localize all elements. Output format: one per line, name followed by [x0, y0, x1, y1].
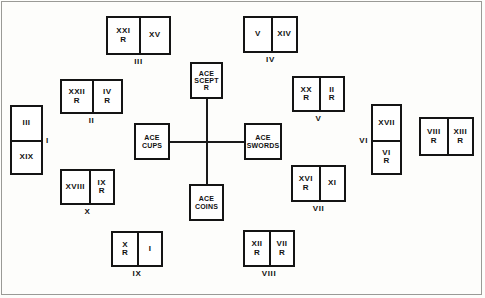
card-reversed: R	[329, 94, 335, 102]
page-border	[1, 1, 482, 295]
card-rank: ACE	[144, 134, 159, 141]
card-reversed: R	[457, 137, 463, 145]
card-slot[interactable]: XIII R	[447, 119, 473, 154]
card-rank: ACE	[199, 195, 214, 202]
group-number: V	[316, 114, 322, 123]
card-rank: I	[149, 245, 152, 253]
card-ace-swords[interactable]: ACE SWORDS	[246, 125, 280, 158]
card-slot[interactable]: XVIII	[62, 171, 89, 203]
card-slot[interactable]: XV	[139, 18, 170, 53]
card-suit: SCEPT	[194, 77, 218, 84]
card-ace-cups[interactable]: ACE CUPS	[136, 125, 168, 158]
card-slot[interactable]: III	[12, 107, 41, 140]
card-group-3[interactable]: XXI R XV III	[106, 16, 171, 55]
diagram-canvas: ACE SCEPT R ACE CUPS ACE SWORDS ACE COIN…	[0, 0, 485, 298]
card-rank: ACE	[199, 70, 214, 77]
group-number: III	[134, 57, 142, 66]
card-slot[interactable]: XVI R	[293, 167, 319, 200]
card-suit: CUPS	[142, 142, 162, 149]
card-slot[interactable]: V	[245, 18, 271, 51]
group-number: VIII	[262, 269, 276, 278]
card-group-ace-coins[interactable]: ACE COINS	[189, 184, 224, 221]
card-reversed: R	[303, 184, 309, 192]
card-group-11[interactable]: VIII R XIII R	[419, 117, 474, 156]
card-group-4[interactable]: V XIV IV	[243, 16, 298, 53]
card-rank: XVIII	[66, 183, 85, 191]
card-slot[interactable]: VII R	[269, 232, 293, 265]
card-slot[interactable]: XXI R	[108, 18, 139, 53]
group-number: VI	[359, 135, 368, 144]
card-slot[interactable]: XII R	[245, 232, 269, 265]
card-reversed: R	[204, 84, 209, 91]
card-group-9[interactable]: X R I IX	[111, 231, 163, 267]
card-group-5[interactable]: XX R II R V	[292, 76, 345, 112]
card-group-ace-cups[interactable]: ACE CUPS	[134, 123, 170, 160]
card-group-7[interactable]: XVI R XI VII	[291, 165, 346, 202]
group-number: IV	[266, 55, 275, 64]
card-rank: XIV	[277, 30, 291, 38]
card-reversed: R	[254, 249, 260, 257]
card-rank: V	[255, 30, 261, 38]
card-slot[interactable]: XVII	[373, 106, 400, 140]
card-reversed: R	[104, 97, 110, 105]
card-reversed: R	[279, 249, 285, 257]
group-number: II	[89, 116, 95, 125]
group-number: VII	[313, 204, 325, 213]
card-reversed: R	[122, 249, 128, 257]
card-group-1[interactable]: III XIX I	[10, 105, 43, 175]
card-ace-coins[interactable]: ACE COINS	[191, 186, 222, 219]
card-reversed: R	[383, 157, 389, 165]
card-group-ace-sceptre[interactable]: ACE SCEPT R	[190, 62, 223, 99]
card-slot[interactable]: I	[137, 233, 161, 265]
group-number: I	[46, 136, 49, 145]
card-slot[interactable]: XX R	[294, 78, 319, 110]
card-slot[interactable]: IX R	[89, 171, 113, 203]
card-suit: COINS	[195, 203, 218, 210]
card-rank: XVII	[378, 119, 395, 127]
card-slot[interactable]: XIV	[271, 18, 297, 51]
card-reversed: R	[120, 36, 126, 44]
card-rank: XIX	[19, 153, 33, 161]
card-suit: SWORDS	[247, 142, 280, 149]
card-slot[interactable]: IV R	[92, 81, 122, 112]
card-slot[interactable]: II R	[319, 78, 344, 110]
card-group-ace-swords[interactable]: ACE SWORDS	[244, 123, 282, 160]
card-group-8[interactable]: XII R VII R VIII	[243, 230, 295, 267]
card-rank: XV	[149, 31, 160, 39]
card-slot[interactable]: XIX	[12, 140, 41, 173]
card-group-6[interactable]: XVII VI R VI	[371, 104, 402, 175]
card-slot[interactable]: XXII R	[62, 81, 92, 112]
card-group-10[interactable]: XVIII IX R X	[60, 169, 115, 205]
card-reversed: R	[431, 137, 437, 145]
group-number: IX	[133, 269, 142, 278]
card-rank: XI	[328, 179, 336, 187]
card-group-2[interactable]: XXII R IV R II	[60, 79, 123, 114]
card-slot[interactable]: VIII R	[421, 119, 447, 154]
card-rank: ACE	[255, 134, 270, 141]
card-slot[interactable]: XI	[319, 167, 345, 200]
card-reversed: R	[99, 187, 105, 195]
card-reversed: R	[303, 94, 309, 102]
card-slot[interactable]: X R	[113, 233, 137, 265]
card-ace-sceptre[interactable]: ACE SCEPT R	[192, 64, 221, 97]
card-rank: III	[23, 119, 31, 127]
connector-horizontal	[170, 141, 244, 143]
group-number: X	[85, 207, 91, 216]
card-reversed: R	[74, 97, 80, 105]
card-slot[interactable]: VI R	[373, 140, 400, 174]
